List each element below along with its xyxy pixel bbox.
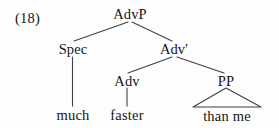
branch-advbar-pp bbox=[177, 57, 224, 73]
node-pp: PP bbox=[218, 74, 234, 89]
node-spec: Spec bbox=[59, 42, 88, 57]
triangle-pp-thanme bbox=[193, 88, 261, 107]
node-adv-bar: Adv′ bbox=[160, 42, 188, 57]
node-advp: AdvP bbox=[113, 7, 146, 22]
node-adv: Adv bbox=[114, 74, 139, 89]
terminal-than-me: than me bbox=[203, 109, 251, 124]
example-number: (18) bbox=[15, 11, 40, 26]
terminal-faster: faster bbox=[110, 108, 143, 123]
syntax-tree-figure: (18) AdvP Spec Adv′ Adv PP much faster t… bbox=[0, 0, 279, 128]
branch-advbar-adv bbox=[128, 57, 172, 73]
branch-advp-advbar bbox=[132, 22, 172, 41]
terminal-much: much bbox=[56, 108, 89, 123]
branch-advp-spec bbox=[74, 22, 128, 41]
